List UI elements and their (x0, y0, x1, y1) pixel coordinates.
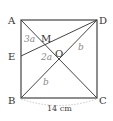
label-mo: 2a (40, 52, 52, 62)
label-d: D (99, 15, 107, 26)
label-c: C (99, 95, 107, 106)
diagram-canvas: A D B C E M O 3a 2a b b 14 cm (0, 0, 113, 121)
label-b: B (8, 95, 15, 106)
label-o: O (55, 48, 63, 59)
label-am: 3a (24, 34, 35, 44)
dimension-label: 14 cm (47, 104, 72, 113)
label-od: b (78, 42, 84, 52)
label-m: M (41, 33, 51, 44)
label-a: A (7, 15, 16, 26)
label-e: E (8, 51, 15, 62)
label-bo: b (43, 77, 49, 87)
